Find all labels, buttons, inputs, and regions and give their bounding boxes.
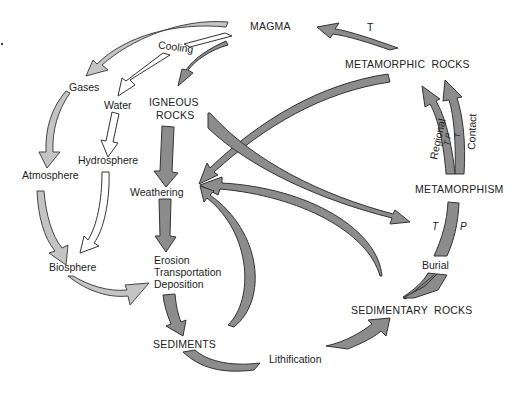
- label-magma: MAGMA: [250, 20, 291, 32]
- label-regional-tp: T P: [442, 132, 454, 147]
- arrow-gases-to-atmosphere: [39, 91, 70, 168]
- label-atmosphere: Atmosphere: [22, 169, 79, 181]
- arrow-water-to-hydrosphere: [101, 112, 119, 157]
- label-burial-t: T: [432, 221, 439, 232]
- label-sediments: SEDIMENTS: [153, 338, 216, 350]
- arrow-sediments-to-lithification: [183, 350, 260, 371]
- label-igneous-2: ROCKS: [156, 109, 194, 121]
- label-burial-p: P: [460, 221, 467, 232]
- label-metamorphic-rocks: METAMORPHIC ROCKS: [345, 58, 470, 70]
- arrow-metamorphic-to-weathering: [199, 74, 390, 184]
- label-burial: Burial: [422, 259, 449, 271]
- arrow-erosion-to-sediments: [163, 294, 186, 336]
- label-gases: Gases: [69, 81, 99, 93]
- label-contact: Contact: [465, 113, 478, 150]
- label-lithification: Lithification: [269, 353, 322, 365]
- label-igneous-1: IGNEOUS: [149, 96, 199, 108]
- label-sedimentary-rocks: SEDIMENTARY ROCKS: [351, 304, 472, 316]
- label-metamorphism: METAMORPHISM: [415, 183, 504, 195]
- label-water: Water: [104, 99, 132, 111]
- arrow-weathering-to-erosion: [155, 199, 176, 252]
- arrow-biosphere-to-erosion: [68, 276, 149, 305]
- label-transportation: Transportation: [154, 266, 221, 278]
- label-hydrosphere: Hydrosphere: [78, 154, 138, 166]
- label-melt-t: T: [367, 21, 374, 33]
- arrow-hydrosphere-to-biosphere: [80, 172, 109, 253]
- label-erosion: Erosion: [154, 254, 190, 266]
- arrow-lithification-to-sedimentary: [326, 318, 390, 349]
- arrow-cooling-to-water: [118, 53, 170, 96]
- arrow-igneous-to-weathering: [154, 126, 178, 187]
- arrow-sedimentary-to-weathering: [200, 177, 382, 276]
- arrow-metamorphic-to-magma: [317, 23, 398, 50]
- label-deposition: Deposition: [154, 278, 204, 290]
- rock-cycle-diagram: MAGMA T METAMORPHIC ROCKS Cooling Gases …: [0, 0, 520, 394]
- arrow-atmosphere-to-biosphere: [37, 191, 68, 265]
- label-biosphere: Biosphere: [49, 261, 96, 273]
- stray-dot: [1, 43, 3, 45]
- arrow-sediments-to-weathering: [200, 186, 255, 327]
- label-weathering: Weathering: [130, 186, 184, 198]
